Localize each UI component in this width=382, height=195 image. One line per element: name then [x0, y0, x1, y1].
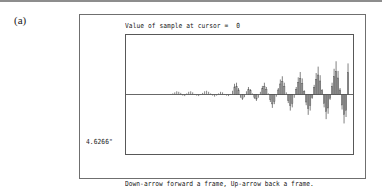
waveform-bar — [333, 76, 334, 94]
waveform-bar — [343, 95, 344, 115]
cursor-value-label: Value of sample at cursor = — [125, 21, 228, 29]
terminal-screen-frame: Value of sample at cursor =0 4.6266" Dow… — [79, 14, 366, 179]
waveform-bar — [284, 86, 285, 94]
waveform-stems — [171, 61, 349, 123]
waveform-bar — [328, 95, 329, 109]
waveform-bar — [326, 95, 327, 112]
waveform-bar — [234, 87, 235, 95]
waveform-bar — [310, 95, 311, 106]
waveform-bar — [280, 84, 281, 95]
waveform-plot-svg — [126, 35, 353, 154]
waveform-bar — [256, 95, 257, 100]
waveform-bar — [345, 95, 346, 111]
cursor-value-number: 0 — [228, 21, 240, 29]
waveform-bar — [337, 78, 338, 95]
waveform-bar — [308, 95, 309, 109]
waveform-bar — [242, 95, 243, 99]
waveform-bar — [274, 95, 275, 102]
waveform-bar — [262, 89, 263, 95]
waveform-bar — [314, 88, 315, 95]
waveform-bar — [339, 90, 340, 95]
waveform-bar — [236, 86, 237, 94]
waveform-bar — [331, 86, 332, 94]
waveform-bar — [316, 79, 317, 94]
waveform-bar — [304, 92, 305, 95]
waveform-bar — [298, 82, 299, 94]
waveform-bar — [320, 81, 321, 95]
waveform-bar — [238, 90, 239, 95]
waveform-bar — [272, 95, 273, 104]
waveform-bar — [248, 89, 249, 94]
help-text-block: Down-arrow forward a frame, Up-arrow bac… — [125, 158, 344, 195]
waveform-bar — [347, 73, 348, 95]
cursor-value-status: Value of sample at cursor =0 — [125, 21, 240, 30]
waveform-bar — [270, 95, 271, 100]
waveform-bar — [250, 91, 251, 95]
waveform-bar — [292, 95, 293, 104]
waveform-bar — [318, 75, 319, 95]
waveform-bar — [324, 95, 325, 104]
waveform-bar — [329, 95, 330, 99]
waveform-bar — [266, 89, 267, 94]
waveform-bar — [306, 95, 307, 103]
waveform-bar — [302, 83, 303, 94]
waveform-bar — [288, 95, 289, 101]
waveform-bar — [335, 71, 336, 94]
vertical-scale-label: 4.6266" — [86, 137, 113, 146]
waveform-bar — [341, 95, 342, 106]
waveform-bar — [300, 79, 301, 95]
figure-part-label: (a) — [14, 14, 26, 26]
waveform-bar — [254, 95, 255, 98]
waveform-bar — [296, 89, 297, 94]
page-top-rule — [0, 0, 382, 2]
waveform-bar — [290, 95, 291, 106]
waveform-bar — [278, 90, 279, 95]
waveform-bar — [264, 86, 265, 94]
waveform-bar — [322, 91, 323, 95]
help-line-1: Down-arrow forward a frame, Up-arrow bac… — [125, 178, 344, 188]
waveform-bar — [312, 95, 313, 98]
waveform-plot[interactable] — [125, 34, 354, 155]
waveform-bar — [282, 82, 283, 95]
